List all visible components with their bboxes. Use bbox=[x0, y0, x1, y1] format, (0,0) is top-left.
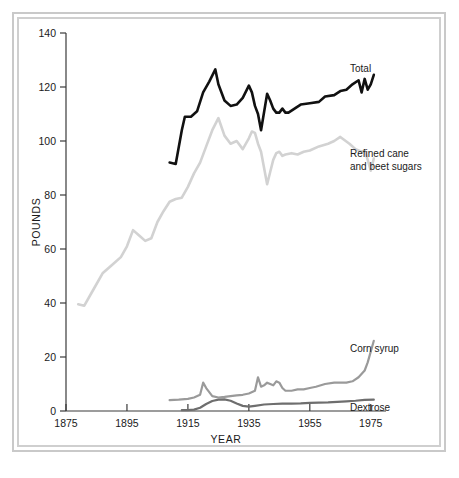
x-tick-label-1935: 1935 bbox=[237, 417, 261, 429]
x-axis-tick-labels: 187518951915193519551975 bbox=[54, 417, 382, 429]
series-line-dextrose bbox=[182, 399, 374, 410]
y-tick-label-40: 40 bbox=[44, 297, 56, 309]
series-label-refined-line1: Refined cane bbox=[350, 148, 409, 159]
x-axis-title: YEAR bbox=[211, 433, 242, 445]
y-tick-label-20: 20 bbox=[44, 351, 56, 363]
data-series-group bbox=[78, 69, 374, 410]
chart-plot-area: 020406080100120140 187518951915193519551… bbox=[0, 0, 459, 478]
series-label-dextrose: Dextrose bbox=[350, 402, 390, 413]
y-axis-ticks bbox=[60, 33, 66, 411]
series-line-refined-cane-and-beet-sugars bbox=[78, 118, 374, 306]
x-tick-label-1875: 1875 bbox=[54, 417, 78, 429]
series-label-refined-line2: and beet sugars bbox=[350, 161, 422, 172]
series-label-total: Total bbox=[350, 63, 371, 74]
series-line-total bbox=[170, 69, 374, 164]
y-tick-label-120: 120 bbox=[38, 81, 56, 93]
x-tick-label-1975: 1975 bbox=[359, 417, 383, 429]
y-tick-label-0: 0 bbox=[50, 405, 56, 417]
y-tick-label-60: 60 bbox=[44, 243, 56, 255]
x-tick-label-1915: 1915 bbox=[176, 417, 200, 429]
x-axis-ticks bbox=[66, 404, 371, 411]
x-tick-label-1895: 1895 bbox=[115, 417, 139, 429]
y-tick-label-80: 80 bbox=[44, 189, 56, 201]
y-tick-label-140: 140 bbox=[38, 27, 56, 39]
series-label-corn-syrup: Corn syrup bbox=[350, 343, 399, 354]
chart-figure: 020406080100120140 187518951915193519551… bbox=[0, 0, 459, 478]
y-tick-label-100: 100 bbox=[38, 135, 56, 147]
x-tick-label-1955: 1955 bbox=[298, 417, 322, 429]
series-line-corn-syrup bbox=[170, 341, 374, 400]
y-axis-title: POUNDS bbox=[30, 198, 42, 247]
